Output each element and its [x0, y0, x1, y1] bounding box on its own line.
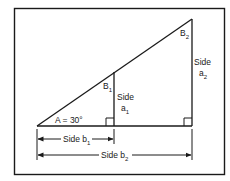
- side-b1-label: Side b1: [63, 134, 91, 146]
- similar-triangles-diagram: A = 30° B1 B2 Side a1 Side a2 Side b1 Si…: [0, 0, 230, 181]
- angle-b2-label: B2: [180, 28, 190, 40]
- right-angle-marker-inner: [106, 118, 114, 126]
- side-a2-label: a2: [199, 68, 208, 80]
- large-triangle: [37, 19, 192, 126]
- side-a1-label: a1: [121, 103, 130, 115]
- side-b2-label: Side b2: [101, 150, 129, 162]
- side-a2-word: Side: [194, 57, 211, 67]
- right-angle-marker-outer: [184, 118, 192, 126]
- side-a1-word: Side: [117, 92, 134, 102]
- angle-b1-label: B1: [103, 81, 113, 93]
- angle-a-label: A = 30°: [55, 115, 83, 125]
